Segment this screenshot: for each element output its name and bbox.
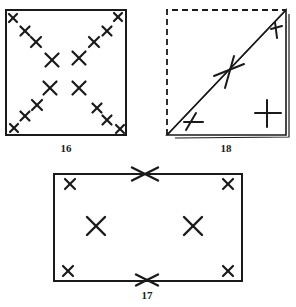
x-mark-icon — [44, 82, 57, 95]
x-mark-icon — [73, 52, 86, 65]
figure-label-16: 16 — [61, 142, 72, 154]
x-mark-icon — [65, 179, 75, 189]
figure-label-18: 18 — [221, 142, 232, 154]
x-mark-icon — [32, 100, 42, 110]
diagram-canvas — [0, 0, 296, 307]
fig17-rectangle — [54, 174, 242, 281]
figure-18 — [167, 10, 289, 138]
x-mark-icon — [114, 13, 122, 21]
x-mark-icon — [73, 82, 86, 95]
fig18-mark-middle — [214, 56, 244, 88]
fig18-mark-bottom — [184, 113, 203, 130]
fig18-diagonal-fold — [167, 10, 286, 135]
x-mark-icon — [31, 37, 41, 47]
x-mark-icon — [10, 124, 18, 132]
x-mark-icon — [21, 27, 30, 36]
x-mark-icon — [223, 266, 233, 276]
x-mark-icon — [9, 14, 17, 22]
x-mark-icon — [63, 266, 73, 276]
figure-17 — [54, 168, 242, 286]
x-mark-icon — [103, 116, 112, 125]
x-mark-icon — [103, 27, 112, 36]
figure-label-17: 17 — [142, 289, 153, 301]
fig18-plus-mark — [255, 100, 281, 127]
x-mark-icon — [184, 217, 202, 235]
x-mark-icon — [93, 104, 102, 113]
figure-16 — [6, 10, 126, 135]
x-mark-icon — [116, 125, 124, 133]
x-mark-icon — [87, 217, 105, 235]
x-mark-icon — [89, 37, 99, 47]
x-mark-icon — [46, 54, 59, 67]
x-mark-icon — [21, 112, 30, 121]
x-mark-icon — [223, 179, 233, 189]
